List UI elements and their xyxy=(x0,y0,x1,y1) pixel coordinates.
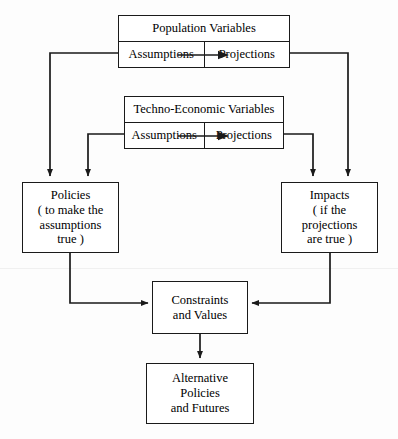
impacts-line-4: are true ) xyxy=(307,232,352,247)
policies-line-4: true ) xyxy=(57,232,84,247)
wire-impacts-to-constraints xyxy=(252,253,330,303)
techno-economic-projections-cell: Projections xyxy=(205,123,284,148)
diagram-canvas: Population Variables Assumptions Project… xyxy=(0,0,398,439)
policies-line-1: Policies xyxy=(51,188,91,203)
group-techno-economic-variables: Techno-Economic Variables Assumptions Pr… xyxy=(124,96,284,149)
constraints-line-1: Constraints xyxy=(172,293,229,308)
techno-economic-assumptions-cell: Assumptions xyxy=(125,123,205,148)
impacts-line-3: projections xyxy=(302,218,358,233)
alternative-line-3: and Futures xyxy=(171,401,230,416)
population-variables-title: Population Variables xyxy=(119,16,289,42)
alternative-line-1: Alternative xyxy=(172,371,228,386)
node-constraints-and-values: Constraints and Values xyxy=(152,281,248,334)
wire-technoeconomic-assumptions-to-policies xyxy=(88,134,124,176)
wire-policies-to-constraints xyxy=(70,253,148,303)
techno-economic-variables-row: Assumptions Projections xyxy=(125,123,283,148)
population-variables-row: Assumptions Projections xyxy=(119,42,289,67)
node-alternative-policies-and-futures: Alternative Policies and Futures xyxy=(146,363,254,424)
population-projections-cell: Projections xyxy=(205,42,290,67)
alternative-line-2: Policies xyxy=(180,386,220,401)
impacts-line-2: ( if the xyxy=(313,203,346,218)
policies-line-2: ( to make the xyxy=(38,203,104,218)
wire-technoeconomic-projections-to-impacts xyxy=(284,134,313,176)
node-policies: Policies ( to make the assumptions true … xyxy=(22,182,119,253)
constraints-line-2: and Values xyxy=(173,308,227,323)
node-impacts: Impacts ( if the projections are true ) xyxy=(281,182,378,253)
impacts-line-1: Impacts xyxy=(310,188,350,203)
techno-economic-variables-title: Techno-Economic Variables xyxy=(125,97,283,123)
policies-line-3: assumptions xyxy=(40,218,102,233)
wire-population-projections-to-impacts xyxy=(290,53,348,176)
group-population-variables: Population Variables Assumptions Project… xyxy=(118,15,290,68)
wire-population-assumptions-to-policies xyxy=(50,53,118,176)
population-assumptions-cell: Assumptions xyxy=(119,42,205,67)
